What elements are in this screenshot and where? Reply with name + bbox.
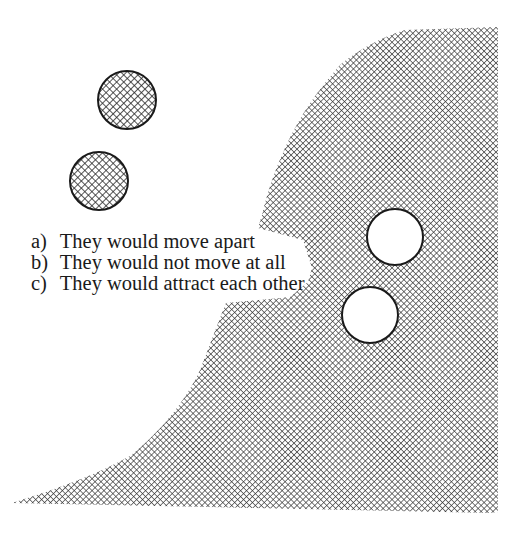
white-sphere-lower: [342, 287, 398, 343]
hatched-sphere-lower: [70, 152, 128, 210]
white-sphere-upper: [367, 209, 423, 265]
option-b-text: They would not move at all: [60, 251, 286, 273]
option-c-label: c): [31, 273, 55, 294]
option-a-label: a): [31, 231, 55, 252]
option-b-label: b): [31, 252, 55, 273]
option-b: b) They would not move at all: [31, 252, 286, 273]
option-c-text: They would attract each other: [60, 272, 305, 294]
option-a: a) They would move apart: [31, 231, 255, 252]
option-c: c) They would attract each other: [31, 273, 305, 294]
hatched-sphere-upper: [98, 71, 156, 129]
option-a-text: They would move apart: [60, 230, 255, 252]
